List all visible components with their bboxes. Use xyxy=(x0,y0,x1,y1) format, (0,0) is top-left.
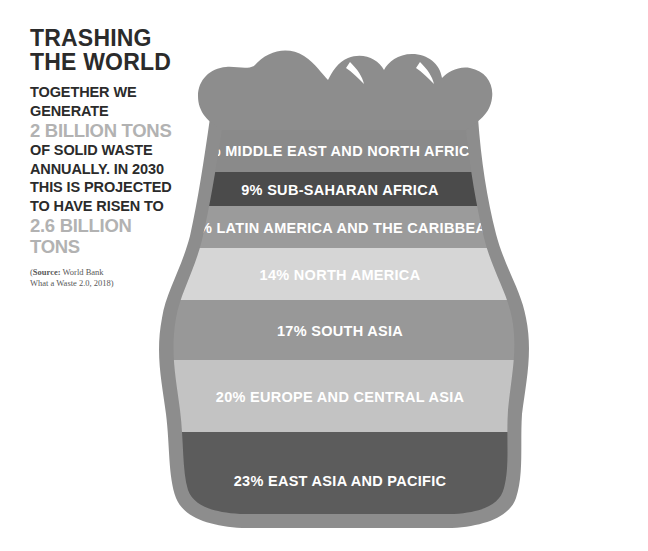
band-label: 11% LATIN AMERICA AND THE CARIBBEAN xyxy=(183,220,497,236)
bag-knot-icon xyxy=(198,51,492,130)
band-label: 23% EAST ASIA AND PACIFIC xyxy=(234,473,447,489)
source-line-2: What a Waste 2.0, 2018) xyxy=(30,278,114,288)
infographic-page: TRASHING THE WORLD TOGETHER WE GENERATE … xyxy=(0,0,648,551)
band-europe-central-asia[interactable]: 20% EUROPE AND CENTRAL ASIA xyxy=(136,360,636,432)
band-label: 6% MIDDLE EAST AND NORTH AFRICA xyxy=(199,143,481,159)
title-line-1: TRASHING xyxy=(30,25,152,51)
band-label: 20% EUROPE AND CENTRAL ASIA xyxy=(216,389,465,405)
band-south-asia[interactable]: 17% SOUTH ASIA xyxy=(136,300,636,360)
trash-bag-chart: 6% MIDDLE EAST AND NORTH AFRICA 9% SUB-S… xyxy=(136,18,636,538)
source-label: Source: xyxy=(33,267,61,277)
band-label: 14% NORTH AMERICA xyxy=(260,267,421,283)
band-north-america[interactable]: 14% NORTH AMERICA xyxy=(136,248,636,300)
trash-bag-svg: 6% MIDDLE EAST AND NORTH AFRICA 9% SUB-S… xyxy=(136,18,636,538)
band-label: 9% SUB-SAHARAN AFRICA xyxy=(241,182,439,198)
band-label: 17% SOUTH ASIA xyxy=(277,323,403,339)
source-line-1: World Bank xyxy=(61,267,104,277)
band-latin-america-caribbean[interactable]: 11% LATIN AMERICA AND THE CARIBBEAN xyxy=(136,206,636,248)
